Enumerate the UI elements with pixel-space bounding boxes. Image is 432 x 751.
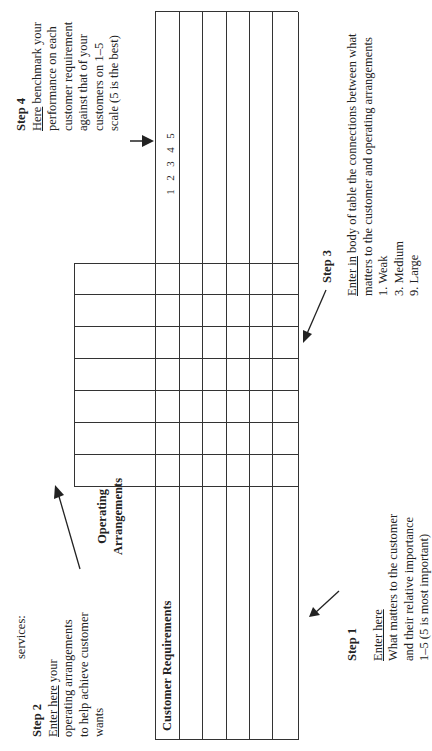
step3-link[interactable]: Enter in [345, 256, 359, 296]
qfd-diagram: services: Step 2 Enter here your operati… [0, 0, 432, 751]
grid-line [298, 12, 299, 740]
step3-scale-item: 1. Weak [376, 34, 392, 296]
grid-line [226, 12, 227, 740]
grid-line [249, 12, 250, 740]
grid-line [272, 12, 273, 740]
roof-line [74, 294, 155, 295]
scale-value: 5 [164, 129, 176, 143]
scale-value: 1 [164, 185, 176, 199]
grid-line [155, 739, 298, 740]
benchmark-scale: 12345 [160, 129, 178, 199]
roof-line [74, 263, 155, 264]
operating-arrangements-label: Operating Arrangements [95, 489, 126, 555]
roof-line [74, 358, 155, 359]
grid-line [155, 294, 298, 295]
step2-link-rest: your [46, 659, 60, 685]
step2-line: operating arrangements [61, 612, 77, 737]
grid-line [179, 12, 180, 740]
roof-line [74, 486, 155, 487]
scale-value: 4 [164, 143, 176, 157]
step4-block: Step 4 Here benchmark your performance o… [14, 22, 123, 131]
grid-line [155, 263, 298, 264]
step4-link[interactable]: Here [30, 107, 44, 131]
roof-line [74, 454, 155, 455]
step3-title: Step 3 [320, 250, 336, 283]
step2-line: to help achieve customer [77, 612, 93, 737]
step2-link[interactable]: Enter here [46, 685, 60, 737]
roof-line [74, 390, 155, 391]
step3-block: Enter in body of table the connections b… [345, 34, 423, 296]
step2-title: Step 2 [30, 612, 46, 737]
grid-line [155, 390, 298, 391]
step2-intro: services: [14, 615, 30, 659]
scale-value: 3 [164, 157, 176, 171]
grid-line [155, 358, 298, 359]
grid-line [155, 454, 298, 455]
grid-line [155, 326, 298, 327]
step3-scale-item: 3. Medium [392, 34, 408, 296]
step1-link[interactable]: Enter here [371, 514, 387, 661]
step1-title: Step 1 [345, 514, 361, 661]
step1-arrow-icon [305, 581, 345, 621]
step4-arrow-icon [128, 131, 156, 151]
roof-line [74, 422, 155, 423]
grid-line [155, 422, 298, 423]
roof-line [74, 326, 155, 327]
grid-line [155, 11, 298, 12]
step2-arrow-icon [50, 481, 85, 571]
step3-arrow-icon [300, 286, 330, 346]
grid-line [202, 12, 203, 740]
step1-block: Step 1 Enter here What matters to the cu… [345, 514, 432, 661]
step3-scale-item: 9. Large [407, 34, 423, 296]
customer-requirements-header: Customer Requirements [155, 491, 179, 731]
scale-value: 2 [164, 171, 176, 185]
step2-line: wants [92, 612, 108, 737]
step2-block: Step 2 Enter here your operating arrange… [30, 612, 108, 737]
grid-line [155, 486, 298, 487]
step4-title: Step 4 [14, 22, 30, 131]
